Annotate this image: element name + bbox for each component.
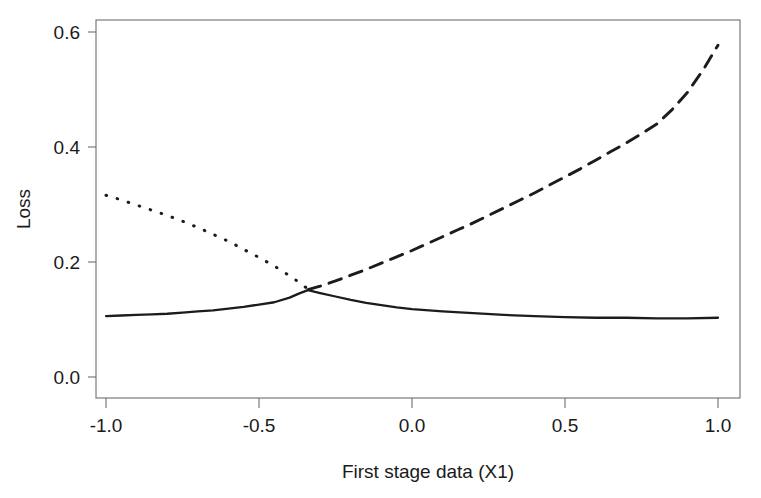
x-tick-label: 0.0	[399, 415, 425, 436]
x-tick-label: 0.5	[552, 415, 578, 436]
series-path-dotted-curve	[106, 195, 308, 289]
plot-frame	[96, 20, 740, 398]
x-tick-label: -0.5	[243, 415, 276, 436]
loss-plot-figure: ( ) 0.00.20.40.6 -1.0-0.50.00.51.0 First…	[0, 0, 761, 498]
y-axis-title: Loss	[13, 189, 34, 229]
y-tick-label: 0.6	[54, 22, 80, 43]
y-tick-label: 0.0	[54, 367, 80, 388]
plot-border	[96, 20, 740, 398]
y-tick-label: 0.4	[54, 137, 81, 158]
data-series-group	[106, 45, 718, 318]
series-path-dashed-curve	[308, 45, 718, 289]
y-axis: 0.00.20.40.6	[54, 22, 96, 388]
plot-canvas: 0.00.20.40.6 -1.0-0.50.00.51.0 First sta…	[0, 0, 761, 498]
x-axis-title: First stage data (X1)	[342, 461, 514, 482]
x-axis: -1.0-0.50.00.51.0	[90, 398, 732, 436]
y-tick-label: 0.2	[54, 252, 80, 273]
x-tick-label: -1.0	[90, 415, 123, 436]
x-tick-label: 1.0	[705, 415, 731, 436]
series-path-solid-curve	[106, 290, 718, 318]
